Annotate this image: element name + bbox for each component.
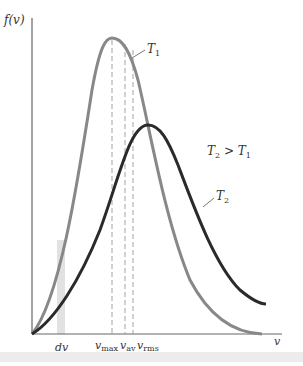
t1-leader [132, 50, 145, 58]
speed-distribution-diagram: f(v) T1 T2 > T1 T2 dv vmax vav vrms v [0, 0, 303, 366]
bottom-divider [0, 352, 303, 362]
t1-label: T1 [147, 42, 160, 58]
t2-label: T2 [216, 189, 229, 205]
temperature-comparison-label: T2 > T1 [207, 144, 251, 160]
vrms-label: vrms [137, 339, 159, 353]
t1-curve [32, 38, 262, 334]
vmax-label: vmax [95, 339, 119, 353]
t2-leader [203, 198, 214, 207]
vav-label: vav [120, 339, 136, 353]
x-axis-label: v [274, 335, 281, 348]
y-axis-label: f(v) [3, 13, 25, 27]
